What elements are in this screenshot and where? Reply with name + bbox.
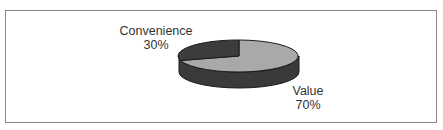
label-convenience-percent: 30%	[118, 38, 194, 52]
label-value-percent: 70%	[290, 98, 326, 112]
label-value: Value 70%	[290, 84, 326, 112]
label-value-name: Value	[290, 84, 326, 98]
pie-chart	[0, 0, 443, 130]
label-convenience-name: Convenience	[118, 24, 194, 38]
label-convenience: Convenience 30%	[118, 24, 194, 52]
